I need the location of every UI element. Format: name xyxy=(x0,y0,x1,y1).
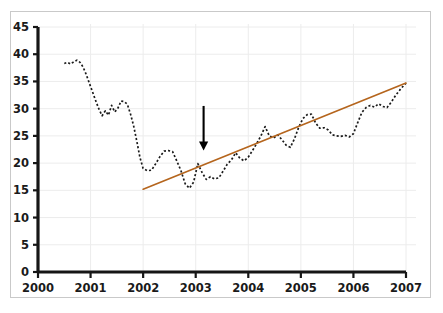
downward-arrow-annotation xyxy=(199,106,208,151)
y-axis-tick-label: 15 xyxy=(13,183,29,197)
y-axis-tick-label: 5 xyxy=(21,238,29,252)
chart-container: 051015202530354045 200020012002200320042… xyxy=(0,0,443,313)
x-axis-tick-label: 2007 xyxy=(390,281,422,295)
y-axis-tick-label: 45 xyxy=(13,20,29,34)
x-axis-tick-label: 2003 xyxy=(180,281,212,295)
x-axis-tick-label: 2002 xyxy=(127,281,159,295)
data-series-dotted-line xyxy=(64,60,406,188)
x-axis-tick-label: 2006 xyxy=(337,281,369,295)
x-axis-tick-label: 2004 xyxy=(232,281,264,295)
x-axis-tick-label: 2001 xyxy=(75,281,107,295)
y-axis-tick-label: 40 xyxy=(13,47,29,61)
gridlines-group xyxy=(38,24,416,272)
x-axis-labels-group: 20002001200220032004200520062007 xyxy=(22,281,422,295)
x-axis-tick-label: 2000 xyxy=(22,281,54,295)
y-axis-tick-label: 0 xyxy=(21,265,29,279)
y-axis-tick-label: 35 xyxy=(13,74,29,88)
y-axis-tick-label: 10 xyxy=(13,211,29,225)
chart-plot-svg: 051015202530354045 200020012002200320042… xyxy=(0,0,443,313)
arrow-head-icon xyxy=(199,142,208,151)
y-axis-tick-label: 20 xyxy=(13,156,29,170)
y-axis-labels-group: 051015202530354045 xyxy=(13,20,29,279)
x-axis-tick-label: 2005 xyxy=(285,281,317,295)
y-axis-tick-label: 25 xyxy=(13,129,29,143)
y-axis-tick-label: 30 xyxy=(13,102,29,116)
